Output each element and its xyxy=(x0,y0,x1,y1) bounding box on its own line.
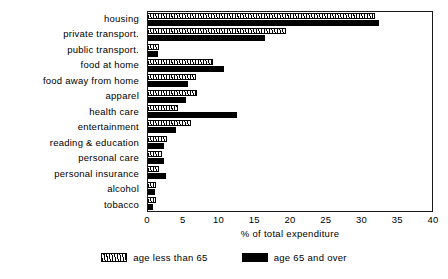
bar-over65 xyxy=(148,173,166,179)
bar-under65 xyxy=(148,166,159,172)
bar-group xyxy=(148,135,432,150)
bar-group xyxy=(148,89,432,104)
legend-label: age less than 65 xyxy=(133,252,208,263)
bar-over65 xyxy=(148,143,164,149)
bar-over65 xyxy=(148,97,186,103)
x-tick-label: 15 xyxy=(249,214,260,225)
bar-group xyxy=(148,119,432,134)
bar-group xyxy=(148,196,432,211)
legend-swatch-solid xyxy=(242,253,268,262)
x-tick-label: 20 xyxy=(284,214,295,225)
bar-under65 xyxy=(148,13,375,19)
bar-group xyxy=(148,104,432,119)
category-label: tobacco xyxy=(0,197,143,212)
bar-group xyxy=(148,12,432,27)
bar-over65 xyxy=(148,66,224,72)
bar-under65 xyxy=(148,105,178,111)
bar-over65 xyxy=(148,189,155,195)
category-label: personal care xyxy=(0,150,143,165)
bar-group xyxy=(148,43,432,58)
bar-over65 xyxy=(148,20,379,26)
category-label: housing xyxy=(0,11,143,26)
chart-legend: age less than 65age 65 and over xyxy=(0,252,448,263)
bar-chart-figure: housingprivate transport.public transpor… xyxy=(0,0,448,279)
legend-item: age 65 and over xyxy=(242,252,347,263)
bar-group xyxy=(148,27,432,42)
x-tick-label: 5 xyxy=(180,214,186,225)
bar-group xyxy=(148,73,432,88)
legend-label: age 65 and over xyxy=(274,252,347,263)
category-label: food at home xyxy=(0,57,143,72)
bar-under65 xyxy=(148,59,213,65)
category-label: food away from home xyxy=(0,73,143,88)
bars-container xyxy=(148,12,432,211)
category-label: apparel xyxy=(0,88,143,103)
x-tick-label: 40 xyxy=(427,214,438,225)
x-tick-label: 35 xyxy=(392,214,403,225)
bar-under65 xyxy=(148,90,197,96)
bar-over65 xyxy=(148,51,158,57)
legend-item: age less than 65 xyxy=(101,252,208,263)
x-tick-label: 25 xyxy=(320,214,331,225)
bar-over65 xyxy=(148,112,237,118)
x-tick-label: 10 xyxy=(213,214,224,225)
bar-group xyxy=(148,165,432,180)
bar-over65 xyxy=(148,35,265,41)
plot-area xyxy=(147,11,433,212)
category-label: private transport. xyxy=(0,26,143,41)
bar-over65 xyxy=(148,127,176,133)
x-axis-label: % of total expenditure xyxy=(147,228,433,239)
category-label: health care xyxy=(0,104,143,119)
bar-group xyxy=(148,150,432,165)
bar-under65 xyxy=(148,136,167,142)
bar-group xyxy=(148,180,432,195)
category-label: entertainment xyxy=(0,119,143,134)
bar-under65 xyxy=(148,28,286,34)
bar-over65 xyxy=(148,204,153,210)
category-label: public transport. xyxy=(0,42,143,57)
bar-under65 xyxy=(148,74,196,80)
category-label: alcohol xyxy=(0,181,143,196)
bar-over65 xyxy=(148,158,164,164)
bar-under65 xyxy=(148,197,156,203)
legend-swatch-hatched xyxy=(101,253,127,262)
x-tick-label: 0 xyxy=(144,214,150,225)
bar-under65 xyxy=(148,120,191,126)
category-axis-labels: housingprivate transport.public transpor… xyxy=(0,11,143,212)
bar-under65 xyxy=(148,182,156,188)
bar-under65 xyxy=(148,44,159,50)
bar-over65 xyxy=(148,81,188,87)
category-label: reading & education xyxy=(0,135,143,150)
x-tick-label: 30 xyxy=(356,214,367,225)
bar-under65 xyxy=(148,151,162,157)
bar-group xyxy=(148,58,432,73)
category-label: personal insurance xyxy=(0,166,143,181)
